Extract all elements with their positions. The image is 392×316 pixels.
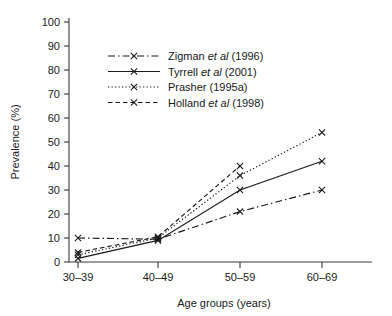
y-tick-label: 60	[48, 112, 60, 124]
y-axis: 0102030405060708090100	[42, 16, 69, 268]
y-tick-label: 0	[54, 256, 60, 268]
x-tick-label: 40–49	[143, 271, 174, 283]
y-tick-label: 20	[48, 208, 60, 220]
legend-label: Zigman et al (1996)	[168, 50, 263, 62]
y-tick-label: 50	[48, 136, 60, 148]
series-line	[78, 161, 322, 258]
legend-label: Tyrrell et al (2001)	[168, 66, 257, 78]
x-tick-label: 50–59	[225, 271, 256, 283]
series-line	[78, 132, 322, 254]
chart-legend: Zigman et al (1996)Tyrrell et al (2001)P…	[108, 50, 264, 109]
legend-item-0[interactable]: Zigman et al (1996)	[108, 50, 263, 62]
y-tick-label: 100	[42, 16, 60, 28]
legend-item-1[interactable]: Tyrrell et al (2001)	[108, 66, 257, 78]
legend-item-2[interactable]: Prasher (1995a)	[108, 81, 248, 93]
y-tick-label: 30	[48, 184, 60, 196]
series-layer	[75, 129, 325, 261]
y-tick-label: 80	[48, 64, 60, 76]
legend-label: Prasher (1995a)	[168, 81, 248, 93]
x-axis-title: Age groups (years)	[177, 297, 271, 309]
x-axis: 30–3940–4950–5960–69	[63, 262, 372, 283]
y-tick-label: 70	[48, 88, 60, 100]
legend-label: Holland et al (1998)	[168, 97, 264, 109]
y-axis-title: Prevalence (%)	[9, 104, 21, 179]
series-1	[75, 158, 325, 261]
y-tick-label: 40	[48, 160, 60, 172]
chart-figure: 0102030405060708090100 30–3940–4950–5960…	[0, 0, 392, 316]
x-tick-label: 60–69	[307, 271, 338, 283]
y-tick-label: 90	[48, 40, 60, 52]
y-tick-label: 10	[48, 232, 60, 244]
x-tick-label: 30–39	[63, 271, 94, 283]
legend-item-3[interactable]: Holland et al (1998)	[108, 97, 264, 109]
prevalence-line-chart: 0102030405060708090100 30–3940–4950–5960…	[0, 0, 392, 316]
